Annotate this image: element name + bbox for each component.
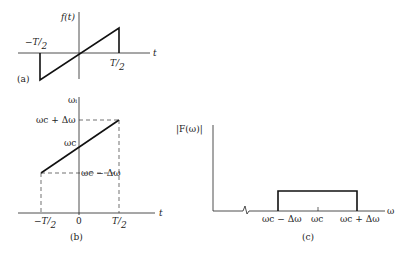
- b-instantaneous-frequency-line: [41, 120, 119, 173]
- figure: f(t) t −T/2 T/2 (a) ωᵢ t ωc + Δω ωc ωc −…: [0, 0, 405, 257]
- b-ylabel: ωᵢ: [68, 95, 77, 105]
- b-tag: (b): [70, 232, 83, 242]
- a-tag: (a): [17, 74, 29, 84]
- c-left-label: ωc − Δω: [262, 214, 301, 224]
- c-spectrum-rectangle: [278, 191, 357, 211]
- a-xlabel: t: [153, 48, 157, 58]
- panel-a: f(t) t −T/2 T/2 (a): [17, 12, 157, 84]
- b-bottom-label: ωc − Δω: [81, 168, 120, 178]
- panel-c: |F(ω)| ω ωc − Δω ωc ωc + Δω (c): [176, 124, 394, 242]
- panel-b: ωᵢ t ωc + Δω ωc ωc − Δω −T/2 0 T/2 (b): [18, 95, 163, 242]
- c-ylabel: |F(ω)|: [176, 124, 203, 135]
- c-frequency-axis-with-break: [213, 206, 385, 214]
- c-center-label: ωc: [311, 214, 323, 224]
- c-right-label: ωc + Δω: [340, 214, 379, 224]
- c-tag: (c): [302, 232, 314, 242]
- b-zero: 0: [76, 216, 82, 226]
- b-top-label: ωc + Δω: [36, 115, 75, 125]
- c-xlabel: ω: [387, 206, 394, 216]
- a-pos-half-T: T/2: [110, 58, 125, 72]
- b-pos-half-T: T/2: [112, 216, 127, 230]
- b-neg-half-T: −T/2: [34, 216, 57, 230]
- a-sawtooth-signal: [40, 28, 119, 80]
- a-neg-half-T: −T/2: [25, 37, 48, 51]
- b-xlabel: t: [159, 208, 163, 218]
- b-mid-label: ωc: [64, 138, 76, 148]
- a-ylabel: f(t): [60, 12, 75, 22]
